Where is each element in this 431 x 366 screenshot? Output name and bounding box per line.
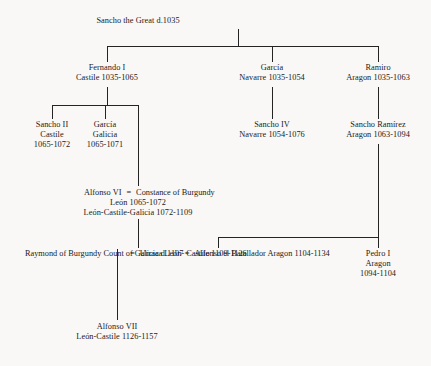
person-detail-line: Aragon 1035-1063 xyxy=(293,73,431,83)
person-urraca: Urraca León- Castile 1109-1126 xyxy=(137,249,183,259)
connector-drop-pedro-i xyxy=(378,237,379,248)
connector-drop-alfonso-el-batallador xyxy=(218,237,219,248)
family-tree-diagram: Sancho the Great d.1035 Fernando I Casti… xyxy=(0,0,431,366)
person-detail-line: 1065-1071 xyxy=(30,140,180,150)
person-constance-of-burgundy: Constance of Burgundy xyxy=(133,188,218,198)
person-detail-line: León- xyxy=(164,249,184,258)
person-detail-line: 1094-1104 xyxy=(323,269,431,279)
person-name-line: Pedro I xyxy=(323,249,431,259)
person-alfonso-el-batallador: Alfonso el Batallador Aragon 1104-1134 xyxy=(191,249,305,259)
person-pedro-i: Pedro I Aragon 1094-1104 xyxy=(323,249,431,280)
person-name-line: Alfonso el Batallador xyxy=(194,249,265,258)
person-alfonso-vii: Alfonso VII León-Castile 1126-1157 xyxy=(17,322,217,342)
person-detail-line: Galicia xyxy=(30,130,180,140)
person-fernando-i: Fernando I Castile 1035-1065 xyxy=(22,63,192,83)
person-name-line: García xyxy=(30,120,180,130)
person-ramiro: Ramiro Aragon 1035-1063 xyxy=(293,63,431,83)
person-alfonso-vi-details: León 1065-1072 León-Castile-Galicia 1072… xyxy=(28,198,248,218)
person-name-line: Alfonso VII xyxy=(17,322,217,332)
connector-drop-garcia-galicia xyxy=(105,105,106,119)
person-name-line: Fernando I xyxy=(22,63,192,73)
person-detail-line: León 1065-1072 xyxy=(28,198,248,208)
marriage-symbol: = xyxy=(124,188,133,198)
person-name-line: Raymond of Burgundy xyxy=(25,249,101,258)
marriage-symbol-urraca-batallador: = xyxy=(183,249,192,259)
marriage-symbol-raymond-urraca: = xyxy=(128,249,137,259)
person-detail-line: Castile 1035-1065 xyxy=(22,73,192,83)
person-garcia-galicia: García Galicia 1065-1071 xyxy=(30,120,180,151)
person-name-line: Ramiro xyxy=(293,63,431,73)
person-name-line: Urraca xyxy=(140,249,163,258)
connector-drop-fernando-i xyxy=(107,46,108,62)
connector-drop-ramiro xyxy=(378,46,379,62)
connector-fernando-i-stem xyxy=(107,87,108,105)
person-detail-line: Aragon xyxy=(323,259,431,269)
connector-drop-sancho-ii xyxy=(52,105,53,119)
person-detail-line: León-Castile-Galicia 1072-1109 xyxy=(28,208,248,218)
person-detail-line: Aragon 1063-1094 xyxy=(293,130,431,140)
person-raymond-of-burgundy: Raymond of Burgundy Count of Galicia d.1… xyxy=(22,249,128,259)
union-raymond-urraca-batallador: Raymond of Burgundy Count of Galicia d.1… xyxy=(22,249,305,259)
person-detail-line: León-Castile 1126-1157 xyxy=(17,332,217,342)
connector-fernando-children-bar xyxy=(52,105,139,106)
union-alfonso-vi-constance: Alfonso VI = Constance of Burgundy xyxy=(81,188,218,198)
connector-urraca-to-alfonso-vii xyxy=(117,249,118,320)
connector-ramiro-to-sancho-ramirez xyxy=(378,87,379,119)
person-sancho-ramirez: Sancho Ramírez Aragon 1063-1094 xyxy=(293,120,431,140)
person-name-line: Sancho the Great d.1035 xyxy=(48,16,228,26)
person-detail-line: Aragon 1104-1134 xyxy=(267,249,329,258)
person-alfonso-vi: Alfonso VI xyxy=(81,188,124,198)
connector-drop-garcia-navarre xyxy=(272,46,273,62)
connector-garcia-to-sancho-iv xyxy=(272,87,273,119)
connector-sancho-great-stem xyxy=(238,29,239,46)
connector-gen1-sibling-bar xyxy=(107,46,378,47)
person-name-line: Sancho Ramírez xyxy=(293,120,431,130)
connector-sancho-ramirez-children-bar xyxy=(218,237,379,238)
connector-alfonso-vi-to-urraca xyxy=(138,219,139,248)
connector-sancho-ramirez-stem xyxy=(378,144,379,237)
person-sancho-the-great: Sancho the Great d.1035 xyxy=(48,16,228,26)
